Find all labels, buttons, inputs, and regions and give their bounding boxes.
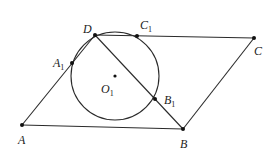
point-b <box>181 127 185 131</box>
segment-cd <box>95 35 254 38</box>
geometry-diagram: ABCDA1B1C1O1 <box>0 0 271 158</box>
label-b1: B1 <box>164 93 175 109</box>
label-c: C <box>254 44 263 58</box>
point-c1 <box>135 34 139 38</box>
label-b: B <box>180 137 188 151</box>
segment-ab <box>22 125 183 129</box>
point-d <box>93 33 97 37</box>
segment-bc <box>183 38 254 129</box>
point-c <box>252 36 256 40</box>
point-o1 <box>113 74 116 77</box>
points-layer <box>20 33 256 131</box>
point-a1 <box>70 61 74 65</box>
point-a <box>20 123 24 127</box>
label-o1: O1 <box>101 82 114 98</box>
point-b1 <box>153 97 157 101</box>
label-a1: A1 <box>52 56 64 72</box>
label-a: A <box>17 133 26 147</box>
segment-da <box>22 35 95 125</box>
label-c1: C1 <box>140 18 152 34</box>
label-d: D <box>82 22 92 36</box>
shapes-layer <box>22 32 254 129</box>
